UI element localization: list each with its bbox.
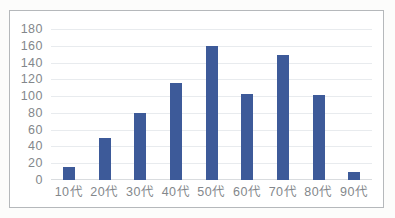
- y-tick-label-40: 40: [10, 139, 43, 153]
- x-tick-label-90代: 90代: [332, 184, 376, 200]
- y-tick-label-100: 100: [10, 89, 43, 103]
- x-axis: 10代20代30代40代50代60代70代80代90代: [51, 184, 372, 204]
- y-tick-label-80: 80: [10, 106, 43, 120]
- y-tick-label-60: 60: [10, 123, 43, 137]
- y-tick-label-0: 0: [10, 173, 43, 187]
- bar-10代: [63, 167, 75, 180]
- y-axis: 020406080100120140160180: [10, 29, 47, 180]
- screenshot-root: { "chart_data": { "type": "bar", "catego…: [0, 0, 395, 218]
- y-tick-label-180: 180: [10, 22, 43, 36]
- y-tick-label-160: 160: [10, 39, 43, 53]
- bar-chart-frame: 020406080100120140160180 10代20代30代40代50代…: [9, 10, 384, 208]
- bar-90代: [348, 172, 360, 180]
- bar-50代: [206, 46, 218, 180]
- plot-area: [51, 29, 372, 180]
- bar-70代: [277, 55, 289, 180]
- y-tick-label-20: 20: [10, 156, 43, 170]
- bar-20代: [99, 138, 111, 180]
- bar-30代: [134, 113, 146, 180]
- y-tick-label-120: 120: [10, 72, 43, 86]
- bar-60代: [241, 94, 253, 180]
- gridline-180: [51, 29, 372, 30]
- y-tick-label-140: 140: [10, 56, 43, 70]
- bar-40代: [170, 83, 182, 180]
- bar-80代: [313, 95, 325, 180]
